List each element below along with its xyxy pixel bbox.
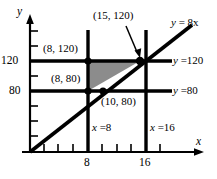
label-point-8-120: (8, 120) bbox=[43, 43, 78, 54]
label-line-y-equals-120: y =120 bbox=[173, 55, 203, 66]
y-axis bbox=[26, 14, 34, 152]
label-line-y-equals-80: y =80 bbox=[173, 85, 198, 96]
y-tick-label-120: 120 bbox=[1, 55, 18, 67]
x-axis-label: x bbox=[196, 136, 201, 148]
label-point-10-80: (10, 80) bbox=[101, 96, 136, 107]
point-10-80 bbox=[99, 87, 106, 94]
label-line-x-equals-16: x =16 bbox=[150, 122, 175, 133]
y-axis-ticks bbox=[30, 31, 38, 136]
graph-figure: y x 120 80 8 16 (15, 120) (8, 120) (8, 8… bbox=[0, 0, 217, 179]
y-axis-label: y bbox=[17, 6, 22, 18]
x-axis bbox=[22, 148, 204, 156]
x-axis-ticks bbox=[44, 144, 160, 152]
label-point-15-120: (15, 120) bbox=[93, 10, 133, 21]
point-15-120 bbox=[136, 57, 144, 65]
x-tick-label-16: 16 bbox=[139, 157, 151, 169]
label-line-x-equals-8: x =8 bbox=[92, 122, 111, 133]
point-8-80 bbox=[84, 87, 91, 94]
annotation-arrow bbox=[126, 26, 141, 58]
y-tick-label-80: 80 bbox=[9, 85, 21, 97]
label-line-y-equals-8x: y = 8x bbox=[171, 17, 199, 28]
point-8-120 bbox=[84, 57, 91, 64]
x-tick-label-8: 8 bbox=[84, 157, 90, 169]
label-point-8-80: (8, 80) bbox=[51, 73, 80, 84]
